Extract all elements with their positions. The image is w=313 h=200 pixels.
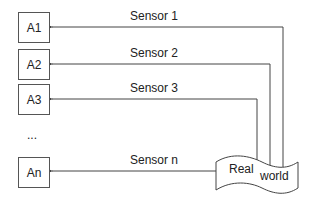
agent-a1-box: A1 bbox=[18, 12, 50, 43]
agent-a1-label: A1 bbox=[27, 21, 42, 35]
agent-a3-box: A3 bbox=[18, 84, 50, 115]
sensor-n-label: Sensor n bbox=[130, 153, 178, 167]
real-world-label-world: world bbox=[260, 169, 289, 183]
agent-a2-label: A2 bbox=[27, 58, 42, 72]
ellipsis: ... bbox=[27, 128, 37, 142]
sensor-2-label: Sensor 2 bbox=[130, 46, 178, 60]
agent-a3-label: A3 bbox=[27, 93, 42, 107]
sensor-3-label: Sensor 3 bbox=[130, 81, 178, 95]
agent-a2-box: A2 bbox=[18, 49, 50, 80]
real-world-label-real: Real bbox=[229, 162, 254, 176]
agent-an-label: An bbox=[27, 166, 42, 180]
sensor-1-label: Sensor 1 bbox=[130, 9, 178, 23]
agent-an-box: An bbox=[18, 157, 50, 188]
